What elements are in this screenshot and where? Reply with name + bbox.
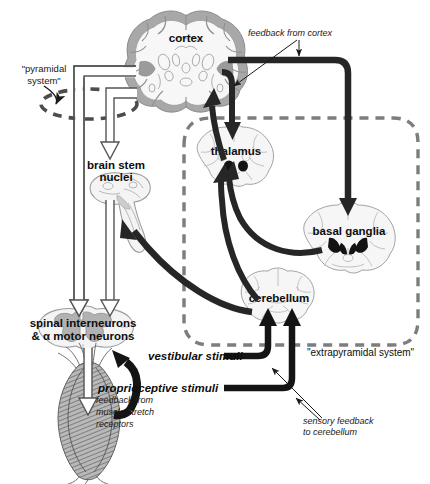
sensory-feedback-label-line2: to cerebellum: [303, 427, 358, 437]
thalamic-nucleus-right: [238, 160, 248, 171]
spinal-label-line1: spinal interneurons: [30, 317, 137, 329]
bulbospinal-tract-outlined: [101, 200, 119, 316]
feedback-from-cortex-label: feedback from cortex: [248, 28, 333, 38]
pyramidal-system-label-line2: system": [27, 75, 60, 86]
brain-stem-nuclei-label-line2: nuclei: [99, 171, 132, 183]
sensory-feedback-label-line1: sensory feedback: [303, 416, 374, 426]
muscle-feedback-label-line3: receptors: [96, 419, 134, 429]
vestibular-input-tract: [224, 308, 277, 356]
extrapyramidal-system-label: "extrapyramidal system": [307, 347, 415, 358]
sensory-feedback-leader-lines: [272, 368, 322, 420]
muscle-feedback-label-line2: muscle stretch: [96, 407, 154, 417]
diagram-canvas: cortex brain stem nuclei: [0, 0, 430, 484]
cortex-label: cortex: [169, 32, 204, 44]
brain-stem-nuclei-label-line1: brain stem: [87, 159, 145, 171]
basal-ganglia-label: basal ganglia: [313, 225, 386, 237]
vestibular-stimuli-label: vestibular stimuli: [148, 350, 243, 362]
muscle-feedback-label-line1: feedback from: [96, 395, 154, 405]
spinal-label-line2: & α motor neurons: [32, 330, 135, 342]
proprioceptive-stimuli-label: proprioceptive stimuli: [97, 382, 219, 394]
pyramidal-system-label-line1: "pyramidal: [22, 63, 67, 74]
corticobulbar-tract-outlined: [101, 88, 137, 159]
